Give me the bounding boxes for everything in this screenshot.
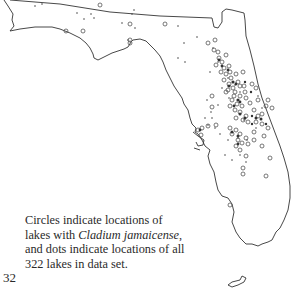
figure-caption: Circles indicate locations of lakes with… bbox=[25, 213, 225, 271]
caption-line-2-suffix: , bbox=[179, 228, 182, 242]
page-number: 32 bbox=[3, 270, 16, 286]
lake-dots bbox=[34, 3, 263, 163]
caption-line-1: Circles indicate locations of bbox=[25, 213, 225, 228]
species-name: Cladium jamaicense bbox=[78, 228, 179, 242]
caption-line-2: lakes with Cladium jamaicense, bbox=[25, 228, 225, 243]
caption-line-3: and dots indicate locations of all bbox=[25, 242, 225, 257]
caption-line-2-prefix: lakes with bbox=[25, 228, 78, 242]
cladium-circles bbox=[64, 3, 274, 207]
caption-line-4: 322 lakes in data set. bbox=[25, 257, 225, 272]
